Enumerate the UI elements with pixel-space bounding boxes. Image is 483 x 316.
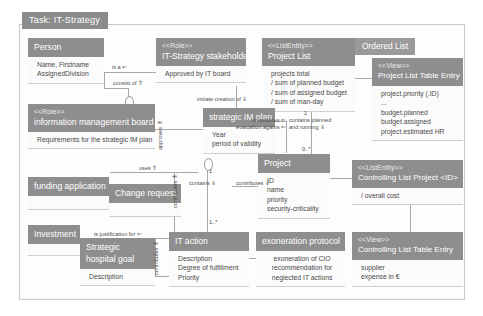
class-name-project-list: Project List [268, 50, 349, 62]
class-box-change-request[interactable]: Change request [109, 184, 181, 217]
class-header-im-board: <<Role>> information management board [28, 104, 155, 132]
edge-label-contributes-vertical-goal: contributes ⇑ [153, 241, 160, 275]
class-box-exoneration-protocol[interactable]: exoneration protocol exoneration of CIO … [256, 232, 345, 287]
attribute: Description [178, 254, 243, 263]
ordered-list-tag[interactable]: Ordered List [355, 38, 415, 55]
class-body-it-action: Description Degree of fulfillment Priori… [169, 251, 249, 287]
attribute: budget.assigned [381, 117, 457, 126]
class-stereotype-controlling-list-table-entry: <<View>> [358, 235, 457, 244]
attribute: Degree of fulfillment [178, 263, 243, 272]
attribute: / overall cost [361, 191, 457, 200]
attribute: neglected IT actions [265, 273, 339, 282]
edge-label-contains-planned-running: contains planned and running ⇓ [289, 117, 331, 130]
class-body-strategic-hospital-goal: Description [80, 269, 155, 286]
attribute: name [267, 185, 324, 194]
class-box-project-list-table-entry[interactable]: <<View>> Project List Table Entry projec… [372, 58, 463, 141]
attribute: Priority [178, 273, 243, 282]
class-box-im-board[interactable]: <<Role>> information management board Re… [28, 104, 155, 149]
edge-label-contributes-vertical-left: contributes ⇑ [172, 174, 179, 208]
task-tab-label: Task: IT-Strategy [22, 12, 108, 29]
edge-label-contains-planned: contains planned and running ⇓ [289, 117, 343, 132]
attribute: exoneration of CIO [265, 254, 339, 263]
edge-label-justification-for: is justification for ⇐ [94, 231, 142, 238]
edge-project-body-right [330, 178, 354, 179]
class-header-funding-application: funding application [28, 177, 109, 196]
attribute: / sum of assigned budget [271, 88, 349, 97]
class-box-funding-application[interactable]: funding application [28, 177, 109, 210]
class-body-im-board: Requirements for the strategic IM plan [28, 132, 155, 149]
class-box-project-list[interactable]: <<ListEntity>> Project List projects tot… [262, 38, 355, 112]
edge-label-is-a: is a ⇐ [112, 64, 127, 71]
class-body-person: Name, Firstname AssignedDivision [28, 57, 104, 84]
edge-itaction-project [207, 160, 208, 238]
attribute: budget.planned [381, 108, 457, 117]
class-name-project-list-table-entry: Project List Table Entry [378, 70, 457, 82]
edge-label-contributes-evaluation: contributes ⇐ evaluation agains ⇐ [224, 117, 286, 132]
edge-controlling-entry [410, 205, 411, 233]
class-body-exoneration-protocol: exoneration of CIO recommendation for ne… [256, 251, 345, 287]
class-box-stakeholder[interactable]: <<Role>> IT-Strategy stakeholder Approve… [156, 38, 246, 83]
edge-implan-projectlist-v [286, 121, 287, 153]
class-box-it-action[interactable]: IT action Description Degree of fulfillm… [169, 232, 249, 287]
multiplicity-one-star: 1..* [209, 219, 217, 225]
multiplicity-one-right: 1 [304, 110, 307, 116]
class-stereotype-controlling-list-project: <<ListEntity>> [358, 163, 457, 172]
attribute: ID [267, 176, 324, 185]
edge-projectlist-entry-a [355, 78, 373, 79]
class-stereotype-project-list: <<ListEntity>> [268, 41, 349, 50]
attribute: recommendation for [265, 263, 339, 272]
class-box-controlling-list-table-entry[interactable]: <<View>> Controlling List Table Entry su… [352, 232, 463, 287]
class-header-controlling-list-table-entry: <<View>> Controlling List Table Entry [352, 232, 463, 260]
class-name-strategic-hospital-goal: Strategic hospital goal [86, 241, 149, 265]
multiplicity-one-top: 1 [209, 168, 212, 174]
class-body-stakeholder: Approved by IT board [156, 66, 246, 83]
class-box-investment[interactable]: Investment [28, 225, 80, 256]
attribute: projects total [271, 69, 349, 78]
class-header-project-list: <<ListEntity>> Project List [262, 38, 355, 66]
attribute: period of validity [212, 139, 269, 148]
class-body-project-list: projects total / sum of planned budget /… [262, 66, 355, 112]
attribute: / sum of planned budget [271, 78, 349, 87]
class-body-controlling-list-table-entry: supplier expense in € [352, 260, 463, 287]
edge-label-consist-of: consist of ⇑ [113, 80, 143, 87]
class-box-person[interactable]: Person Name, Firstname AssignedDivision [28, 38, 104, 84]
attribute: security-criticality [267, 204, 324, 213]
class-name-funding-application: funding application [34, 180, 103, 192]
class-box-strategic-hospital-goal[interactable]: Strategic hospital goal Description [80, 238, 155, 286]
class-body-change-request [109, 203, 181, 217]
class-stereotype-project-list-table-entry: <<View>> [378, 61, 457, 70]
edge-label-uses: uses ⇑ [139, 165, 157, 172]
class-name-project: Project [264, 157, 324, 169]
attribute: / sum of man-day [271, 97, 349, 106]
class-header-investment: Investment [28, 225, 80, 244]
class-name-change-request: Change request [115, 187, 175, 199]
class-name-stakeholder: IT-Strategy stakeholder [162, 50, 240, 62]
edge-label-contributes-down: contributes ⇓ [236, 180, 270, 187]
attribute: expense in € [361, 272, 457, 281]
edge-label-evaluation-agains: evaluation agains ⇐ [236, 124, 286, 130]
attribute: supplier [361, 263, 457, 272]
attribute: Requirements for the strategic IM plan [37, 135, 149, 144]
attribute: ... [381, 98, 457, 107]
edge-label-contains-down: contains ⇓ [189, 180, 216, 187]
edge-person-stakeholder [104, 72, 156, 73]
attribute: AssignedDivision [37, 69, 98, 78]
edge-person-imboard-v [104, 72, 105, 88]
class-box-controlling-list-project[interactable]: <<ListEntity>> Controlling List Project … [352, 160, 463, 205]
class-name-controlling-list-project: Controlling List Project <ID> [358, 172, 457, 184]
class-name-investment: Investment [34, 228, 74, 240]
attribute: project.estimated HR [381, 127, 457, 136]
diagram-canvas: Task: IT-Strategy is a ⇐ consist of ⇑ ap… [0, 0, 483, 316]
edge-goal-contributes-h [155, 276, 169, 277]
attribute: Description [89, 272, 149, 281]
class-header-controlling-list-project: <<ListEntity>> Controlling List Project … [352, 160, 463, 188]
edge-person-imboard-h [104, 88, 128, 89]
class-body-controlling-list-project: / overall cost [352, 188, 463, 205]
class-name-it-action: IT action [175, 235, 243, 247]
class-name-person: Person [34, 41, 98, 53]
class-header-project: Project [258, 154, 330, 173]
class-header-person: Person [28, 38, 104, 57]
attribute: priority [267, 195, 324, 204]
attribute: Name, Firstname [37, 60, 98, 69]
class-header-exoneration-protocol: exoneration protocol [256, 232, 345, 251]
